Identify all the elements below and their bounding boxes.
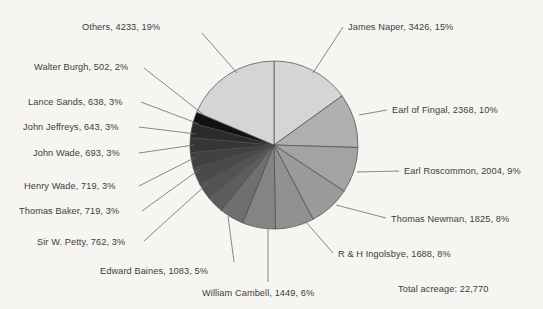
slice-label-r-h-ingolsbye: R & H Ingolsbye, 1688, 8% xyxy=(338,249,451,260)
leader-line xyxy=(202,33,237,73)
leader-line xyxy=(141,102,199,124)
leader-line xyxy=(313,27,343,73)
slice-label-henry-wade: Henry Wade, 719, 3% xyxy=(24,181,115,192)
total-acreage-label: Total acreage: 22,770 xyxy=(398,284,488,294)
leader-line xyxy=(357,171,399,172)
slice-label-lance-sands: Lance Sands, 638, 3% xyxy=(28,97,122,108)
leader-line xyxy=(144,68,204,115)
pie-chart-figure: Others, 4233, 19%Walter Burgh, 502, 2%La… xyxy=(0,0,543,309)
leader-line xyxy=(306,222,333,253)
slice-label-james-naper: James Naper, 3426, 15% xyxy=(348,22,453,33)
slice-label-william-cambell: William Cambell, 1449, 6% xyxy=(202,288,314,299)
slice-label-earl-roscommon: Earl Roscommon, 2004, 9% xyxy=(404,166,521,177)
slice-label-others: Others, 4233, 19% xyxy=(82,22,160,33)
slice-label-john-wade: John Wade, 693, 3% xyxy=(33,148,120,159)
leader-line xyxy=(228,216,234,262)
leader-line xyxy=(142,169,200,211)
leader-line xyxy=(139,157,196,186)
slice-label-john-jeffreys: John Jeffreys, 643, 3% xyxy=(23,122,119,133)
slice-label-walter-burgh: Walter Burgh, 502, 2% xyxy=(34,62,128,73)
slice-label-sir-w-petty: Sir W. Petty, 762, 3% xyxy=(37,237,125,248)
leader-line xyxy=(139,127,196,134)
leader-line xyxy=(359,110,387,115)
leader-line xyxy=(139,145,194,153)
slice-label-thomas-baker: Thomas Baker, 719, 3% xyxy=(19,206,119,217)
leader-line xyxy=(336,205,386,218)
slice-label-earl-of-fingal: Earl of Fingal, 2368, 10% xyxy=(392,105,498,116)
leader-line xyxy=(144,183,208,241)
slice-label-edward-baines: Edward Baines, 1083, 5% xyxy=(100,266,208,277)
slice-label-thomas-newman: Thomas Newman, 1825, 8% xyxy=(391,214,509,225)
